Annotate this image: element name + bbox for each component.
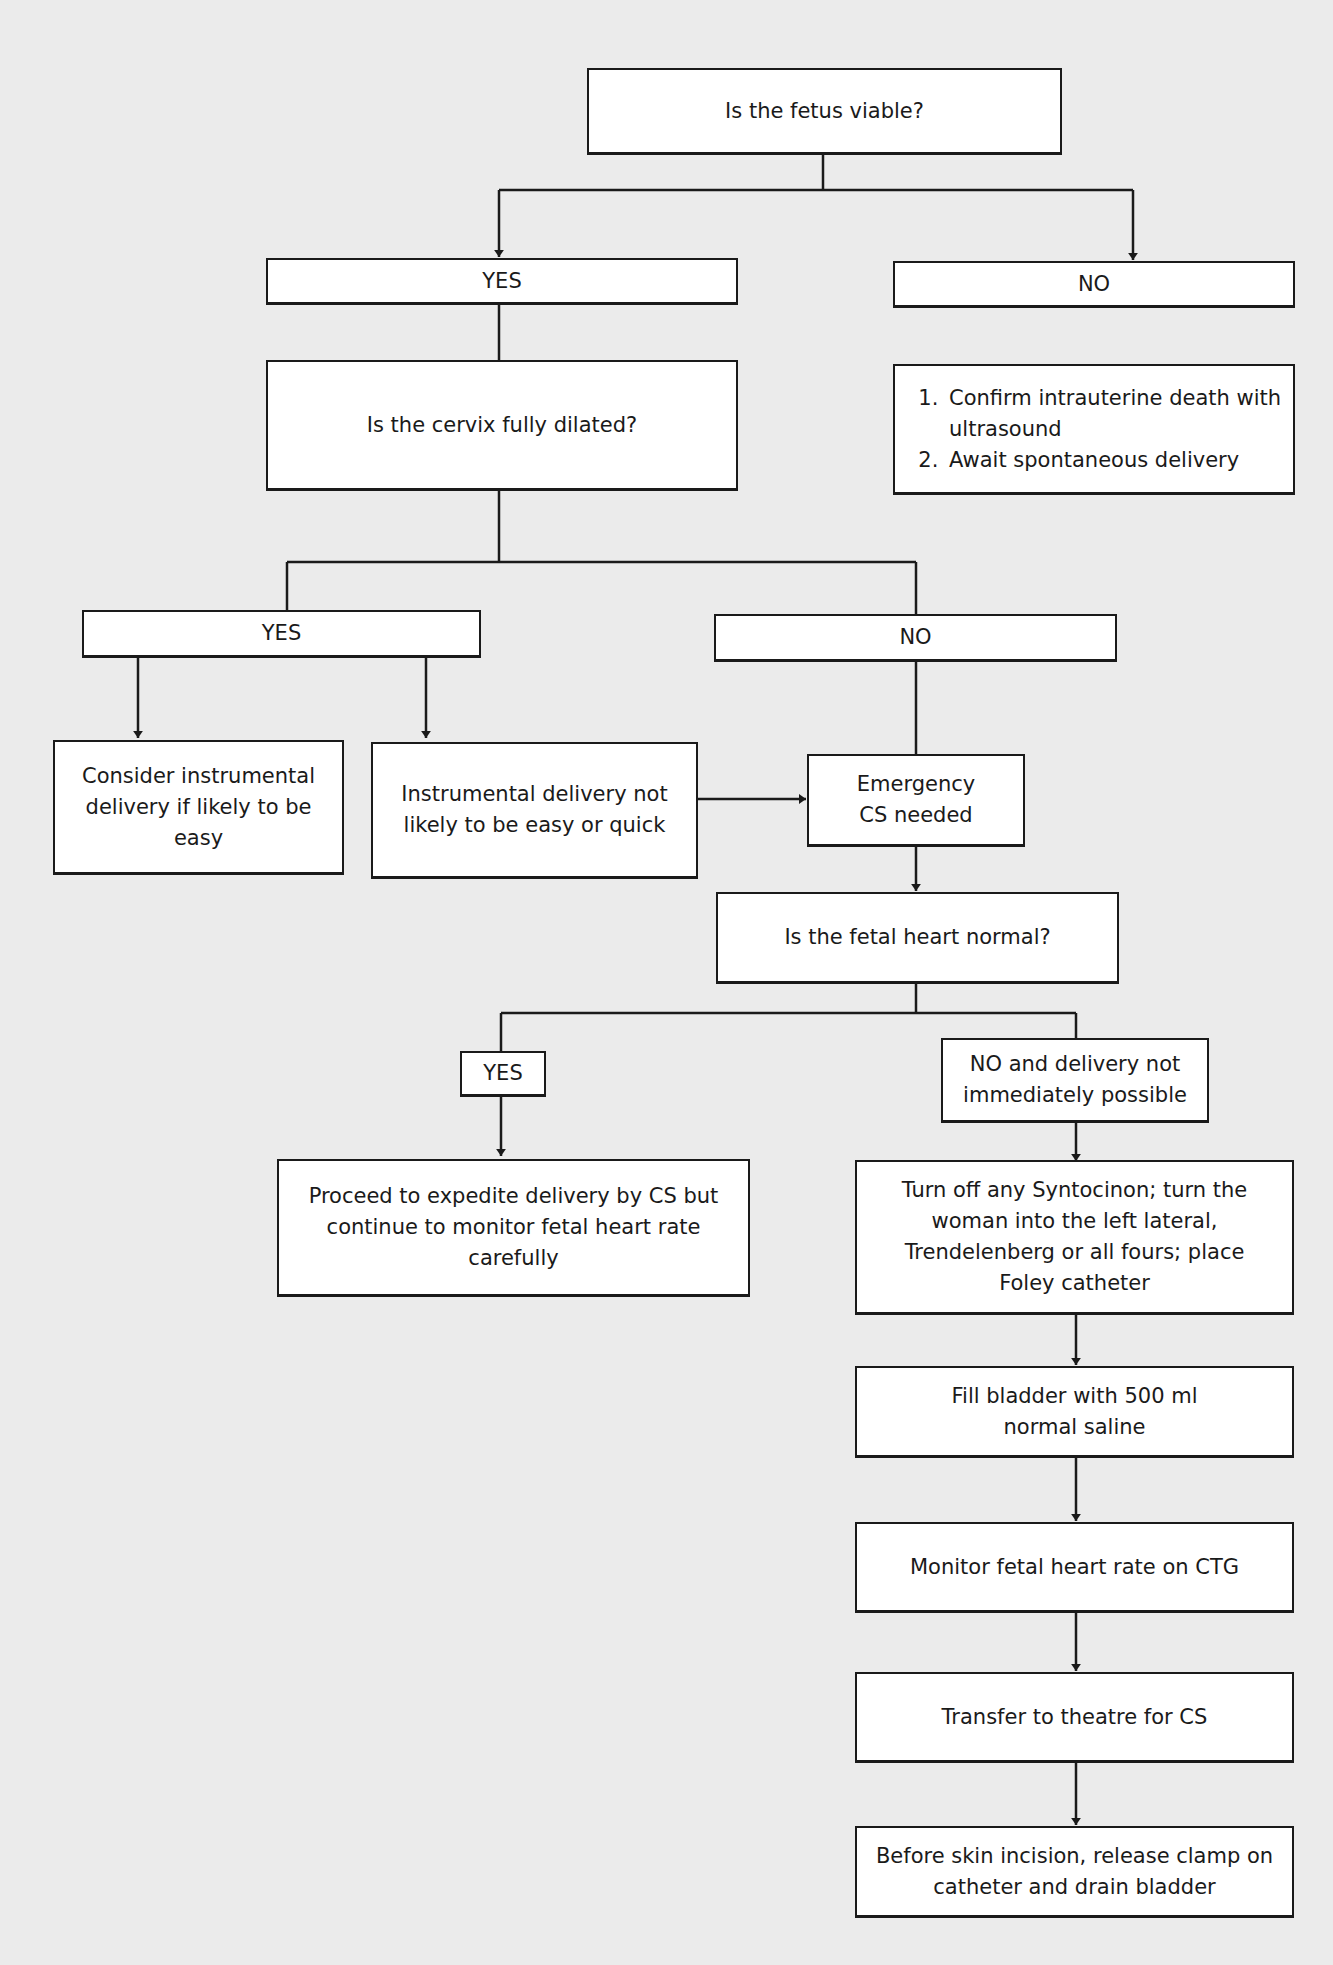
node-is-fetus-viable: Is the fetus viable? [587,68,1062,155]
node-label: YES [482,266,521,297]
node-label: NO [1078,269,1110,300]
node-label: Transfer to theatre for CS [942,1702,1208,1733]
node-label: Monitor fetal heart rate on CTG [910,1552,1239,1583]
flowchart-canvas: Is the fetus viable? YES NO Is the cervi… [0,0,1333,1965]
node-turn-off-syntocinon: Turn off any Syntocinon; turn the woman … [855,1160,1294,1315]
node-heart-no: NO and delivery not immediately possible [941,1038,1209,1123]
node-label: Is the cervix fully dilated? [367,410,637,441]
node-label: Fill bladder with 500 ml normal saline [937,1381,1212,1443]
node-label: Before skin incision, release clamp on c… [867,1841,1282,1903]
node-not-viable-steps: Confirm intrauterine death with ultrasou… [893,364,1295,495]
node-release-clamp: Before skin incision, release clamp on c… [855,1826,1294,1918]
node-label: NO and delivery not immediately possible [955,1049,1195,1111]
node-label: Instrumental delivery not likely to be e… [395,779,674,841]
node-expedite-cs: Proceed to expedite delivery by CS but c… [277,1159,750,1297]
node-label: Emergency CS needed [845,769,987,831]
node-cervix-yes: YES [82,610,481,658]
node-label: YES [262,618,301,649]
node-heart-yes: YES [460,1051,546,1097]
node-cervix-no: NO [714,614,1117,662]
node-label: Is the fetal heart normal? [784,922,1050,953]
node-transfer-theatre: Transfer to theatre for CS [855,1672,1294,1763]
node-viable-no: NO [893,261,1295,308]
node-label: NO [899,622,931,653]
node-instrumental-not-easy: Instrumental delivery not likely to be e… [371,742,698,879]
node-label: Is the fetus viable? [725,96,924,127]
node-emergency-cs: Emergency CS needed [807,754,1025,847]
node-consider-instrumental: Consider instrumental delivery if likely… [53,740,344,875]
node-is-fetal-heart-normal: Is the fetal heart normal? [716,892,1119,984]
node-is-cervix-dilated: Is the cervix fully dilated? [266,360,738,491]
step-item: Await spontaneous delivery [945,445,1283,476]
node-viable-yes: YES [266,258,738,305]
node-label: YES [483,1058,522,1089]
steps-list: Confirm intrauterine death with ultrasou… [911,383,1283,476]
node-monitor-ctg: Monitor fetal heart rate on CTG [855,1522,1294,1613]
node-label: Proceed to expedite delivery by CS but c… [297,1181,730,1274]
node-label: Consider instrumental delivery if likely… [65,761,332,854]
node-fill-bladder: Fill bladder with 500 ml normal saline [855,1366,1294,1458]
step-item: Confirm intrauterine death with ultrasou… [945,383,1283,445]
node-label: Turn off any Syntocinon; turn the woman … [887,1175,1262,1299]
